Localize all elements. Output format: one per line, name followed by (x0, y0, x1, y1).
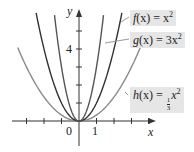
legend-g: g(x) = 3x2 (130, 32, 185, 48)
g-expr: (x) = 3x (139, 33, 178, 47)
h-expr: (x) = (139, 88, 166, 102)
g-exp: 2 (178, 32, 182, 41)
y-axis-arrow-icon (76, 9, 82, 17)
leader-h (125, 92, 128, 95)
x-tick-label-1: 1 (92, 124, 98, 139)
parabola-chart: y x 0 1 4 f(x) = x2 g(x) = 3x2 h(x) = 13… (0, 0, 194, 152)
h-fraction: 13 (167, 97, 171, 112)
legend-h: h(x) = 13x2 (130, 87, 184, 113)
h-exp: 2 (177, 87, 181, 96)
leader-f (121, 17, 129, 22)
f-expr: (x) = x (136, 11, 169, 25)
h-den: 3 (167, 105, 171, 112)
f-exp: 2 (169, 10, 173, 19)
x-axis-label: x (148, 125, 153, 140)
y-tick-label-4: 4 (66, 42, 72, 57)
y-axis-label: y (67, 4, 72, 19)
origin-label: 0 (66, 124, 72, 139)
leader-g (105, 39, 129, 43)
legend-f: f(x) = x2 (130, 10, 176, 26)
